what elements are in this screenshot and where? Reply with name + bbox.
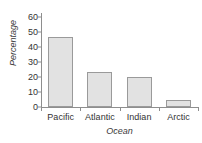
y-tick-label: 20 (0, 72, 38, 82)
y-tick-label: 60 (0, 12, 38, 22)
bar-arctic (166, 100, 191, 108)
y-tick-label: 0 (0, 102, 38, 112)
x-tick-mark (120, 107, 121, 111)
y-tick-label: 10 (0, 87, 38, 97)
x-tick-label-atlantic: Atlantic (85, 112, 115, 122)
x-tick-label-pacific: Pacific (47, 112, 74, 122)
plot-area (41, 12, 196, 107)
x-tick-label-indian: Indian (127, 112, 152, 122)
y-tick-label: 40 (0, 42, 38, 52)
x-tick-mark (159, 107, 160, 111)
bar-indian (127, 77, 152, 107)
x-tick-mark (80, 107, 81, 111)
x-axis-title: Ocean (41, 126, 198, 136)
bar-pacific (48, 37, 73, 108)
x-tick-label-arctic: Arctic (167, 112, 190, 122)
y-tick-label: 30 (0, 57, 38, 67)
bar-chart: Percentage 0102030405060 PacificAtlantic… (0, 0, 202, 143)
x-tick-mark (198, 107, 199, 111)
bar-atlantic (87, 72, 112, 107)
y-tick-label: 50 (0, 27, 38, 37)
x-tick-mark (41, 107, 42, 111)
